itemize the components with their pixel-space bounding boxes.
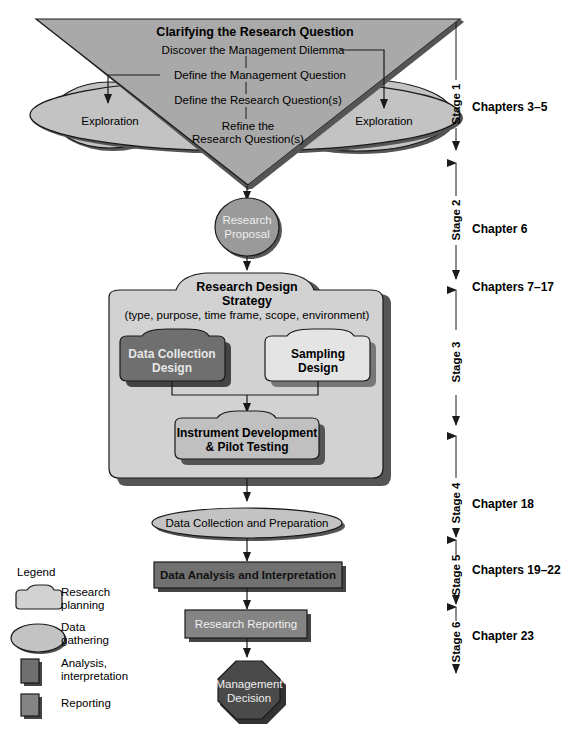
data-analysis-label: Data Analysis and Interpretation (160, 569, 336, 581)
legend-analysis-icon (21, 659, 39, 683)
stage-3-chapters: Chapters 7–17 (472, 280, 554, 294)
management-decision-node: Management Decision (215, 661, 286, 724)
step-define-management-question: Define the Management Question (174, 69, 346, 81)
exploration-right-label: Exploration (355, 115, 413, 127)
step-define-research-question: Define the Research Question(s) (174, 94, 342, 106)
stage-5-chapters: Chapters 19–22 (472, 563, 561, 577)
decision-line1: Management (215, 678, 283, 690)
proposal-line2: Proposal (224, 228, 269, 240)
legend-planning-line2: planning (61, 599, 104, 611)
data-analysis-node: Data Analysis and Interpretation (154, 562, 346, 592)
instrument-line2: & Pilot Testing (205, 440, 288, 454)
legend: Legend Research planning Data gathering … (11, 566, 128, 719)
legend-gathering-line2: gathering (61, 634, 109, 646)
legend-reporting-icon (21, 694, 39, 716)
legend-analysis-line2: interpretation (61, 670, 128, 682)
stage-4-chapters: Chapter 18 (472, 497, 534, 511)
research-proposal-node: Research Proposal (215, 198, 282, 259)
legend-planning-icon (16, 585, 62, 609)
legend-gathering-line1: Data (61, 621, 86, 633)
design-subtitle: (type, purpose, time frame, scope, envir… (125, 309, 370, 321)
stage-2-label: Stage 2 (450, 200, 462, 241)
stage-3-label: Stage 3 (450, 342, 462, 383)
research-process-diagram: Clarifying the Research Question Discove… (0, 0, 570, 736)
stage-4-label: Stage 4 (450, 482, 462, 524)
data-collection-design-line1: Data Collection (128, 347, 215, 361)
data-collection-preparation-label: Data Collection and Preparation (165, 517, 328, 529)
step-refine-line1: Refine the (222, 120, 274, 132)
sampling-design-line2: Design (298, 361, 338, 375)
data-collection-design-node: Data Collection Design (120, 329, 231, 387)
instrument-line1: Instrument Development (177, 426, 318, 440)
data-collection-design-line2: Design (152, 361, 192, 375)
legend-analysis-line1: Analysis, (61, 657, 107, 669)
data-collection-preparation-node: Data Collection and Preparation (152, 508, 345, 541)
instrument-development-node: Instrument Development & Pilot Testing (175, 411, 325, 465)
exploration-left-label: Exploration (81, 115, 139, 127)
proposal-line1: Research (222, 214, 271, 226)
stage-1-chapters: Chapters 3–5 (472, 100, 548, 114)
stage-2-chapters: Chapter 6 (472, 222, 528, 236)
design-title-line2: Strategy (222, 294, 272, 308)
legend-reporting-line1: Reporting (61, 697, 111, 709)
legend-gathering-icon (11, 624, 65, 652)
decision-line2: Decision (227, 692, 271, 704)
sampling-design-node: Sampling Design (265, 329, 376, 387)
legend-planning-line1: Research (61, 586, 110, 598)
clarify-title: Clarifying the Research Question (156, 25, 353, 39)
step-refine-line2: Research Question(s) (192, 133, 304, 145)
sampling-design-line1: Sampling (291, 347, 345, 361)
stage-6-label: Stage 6 (450, 622, 462, 663)
stage-1-label: Stage 1 (450, 83, 462, 125)
step-discover-dilemma: Discover the Management Dilemma (162, 44, 345, 56)
research-reporting-node: Research Reporting (185, 610, 311, 642)
legend-title: Legend (17, 566, 55, 578)
research-reporting-label: Research Reporting (195, 618, 297, 630)
stage-5-label: Stage 5 (450, 554, 462, 596)
stage-6-chapters: Chapter 23 (472, 629, 534, 643)
design-title-line1: Research Design (196, 280, 297, 294)
